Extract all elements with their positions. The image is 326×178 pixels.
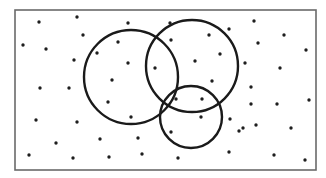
sample-point bbox=[34, 118, 37, 121]
sample-point bbox=[289, 126, 292, 129]
sample-point bbox=[75, 120, 78, 123]
sample-point bbox=[218, 52, 221, 55]
sample-point bbox=[272, 153, 275, 156]
sample-point bbox=[249, 85, 252, 88]
sample-point bbox=[193, 59, 196, 62]
sample-point bbox=[44, 47, 47, 50]
sample-point bbox=[169, 38, 172, 41]
sample-point bbox=[98, 137, 101, 140]
sample-point bbox=[256, 41, 259, 44]
sample-point bbox=[249, 102, 252, 105]
sample-point bbox=[174, 97, 177, 100]
sample-point bbox=[282, 33, 285, 36]
sample-point bbox=[176, 156, 179, 159]
sample-point bbox=[95, 51, 98, 54]
sample-point bbox=[227, 150, 230, 153]
sample-point bbox=[275, 102, 278, 105]
sample-point bbox=[304, 48, 307, 51]
sample-point bbox=[116, 40, 119, 43]
sample-point bbox=[129, 115, 132, 118]
sample-point bbox=[169, 130, 172, 133]
sample-point bbox=[37, 20, 40, 23]
sample-point bbox=[237, 129, 240, 132]
sample-point bbox=[278, 66, 281, 69]
sample-point bbox=[126, 21, 129, 24]
universe-rectangle bbox=[15, 10, 316, 170]
sample-point bbox=[252, 19, 255, 22]
sample-point bbox=[303, 158, 306, 161]
sample-point bbox=[241, 126, 244, 129]
sample-point bbox=[54, 141, 57, 144]
sample-point bbox=[136, 136, 139, 139]
sample-point bbox=[200, 97, 203, 100]
sample-point bbox=[210, 79, 213, 82]
sample-point bbox=[75, 15, 78, 18]
sample-point bbox=[72, 58, 75, 61]
sample-point bbox=[140, 152, 143, 155]
sample-point bbox=[67, 86, 70, 89]
sample-point bbox=[21, 43, 24, 46]
venn-diagram bbox=[0, 0, 326, 178]
sample-point bbox=[106, 100, 109, 103]
sample-point bbox=[71, 156, 74, 159]
sample-point bbox=[307, 98, 310, 101]
sample-point bbox=[227, 27, 230, 30]
sample-point bbox=[27, 153, 30, 156]
sample-point bbox=[228, 117, 231, 120]
sample-point bbox=[107, 155, 110, 158]
sample-point bbox=[38, 86, 41, 89]
sample-point bbox=[126, 61, 129, 64]
sample-point bbox=[199, 115, 202, 118]
sample-point bbox=[207, 33, 210, 36]
sample-point bbox=[81, 33, 84, 36]
sample-point bbox=[153, 66, 156, 69]
sample-point bbox=[254, 123, 257, 126]
sample-point bbox=[110, 78, 113, 81]
sample-point bbox=[243, 61, 246, 64]
